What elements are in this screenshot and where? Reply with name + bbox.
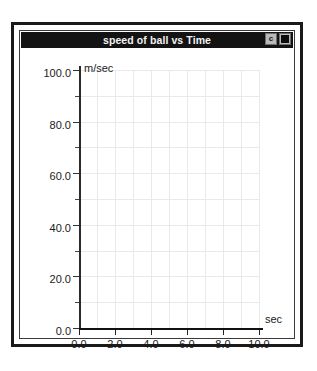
plot-panel: 0.020.040.060.080.0100.0 0.02.04.06.08.0…	[21, 48, 293, 337]
y-tick-minor	[75, 251, 79, 252]
y-tick-label-text: 80.0	[50, 119, 71, 131]
x-tick-label: 0.0	[59, 334, 99, 352]
window-title: speed of ball vs Time	[103, 34, 211, 46]
y-tick-major	[73, 173, 79, 174]
zoom-button[interactable]: c	[265, 33, 277, 45]
gridline	[79, 96, 259, 97]
x-tick-label: 2.0	[95, 334, 135, 352]
y-tick-major	[73, 70, 79, 71]
x-tick-label-text: 4.0	[143, 338, 158, 350]
x-tick-label-text: 0.0	[71, 338, 86, 350]
y-tick-major	[73, 276, 79, 277]
gridline	[79, 251, 259, 252]
gridline	[79, 276, 259, 277]
x-tick-label-text: 2.0	[107, 338, 122, 350]
gridline	[259, 70, 260, 328]
y-tick-label-text: 40.0	[50, 222, 71, 234]
plot-window: speed of ball vs Time c 0.020.040.060.08…	[11, 22, 303, 347]
y-tick-label-text: 20.0	[50, 273, 71, 285]
x-tick-label-text: 6.0	[179, 338, 194, 350]
x-axis-label: sec	[265, 313, 282, 325]
x-tick-label: 4.0	[131, 334, 171, 352]
x-tick-label: 8.0	[203, 334, 243, 352]
gridline	[79, 225, 259, 226]
x-tick-label-text: 8.0	[215, 338, 230, 350]
y-tick-label: 60.0	[21, 166, 71, 184]
y-tick-label-text: 60.0	[50, 170, 71, 182]
y-tick-label: 100.0	[21, 63, 71, 81]
y-tick-major	[73, 122, 79, 123]
plot-area	[79, 70, 259, 328]
y-tick-label: 20.0	[21, 269, 71, 287]
x-tick-label: 6.0	[167, 334, 207, 352]
gridline	[79, 147, 259, 148]
close-icon	[281, 35, 289, 43]
y-axis-label: m/sec	[84, 62, 113, 74]
titlebar-button-group: c	[265, 33, 291, 45]
gridline	[79, 173, 259, 174]
y-tick-label: 80.0	[21, 115, 71, 133]
x-axis-line	[79, 328, 263, 330]
gridline	[79, 302, 259, 303]
x-tick-label-text: 10.0	[248, 338, 269, 350]
window-inner-panel: speed of ball vs Time c 0.020.040.060.08…	[19, 30, 295, 339]
title-bar[interactable]: speed of ball vs Time c	[21, 32, 293, 48]
y-tick-minor	[75, 199, 79, 200]
close-button[interactable]	[279, 33, 291, 45]
y-axis-line	[79, 66, 81, 329]
gridline	[79, 122, 259, 123]
y-tick-label: 40.0	[21, 218, 71, 236]
zoom-icon: c	[269, 35, 273, 43]
x-tick-label: 10.0	[239, 334, 279, 352]
y-tick-major	[73, 225, 79, 226]
y-tick-minor	[75, 96, 79, 97]
y-tick-minor	[75, 147, 79, 148]
y-tick-minor	[75, 302, 79, 303]
y-tick-label-text: 100.0	[43, 67, 71, 79]
gridline	[79, 199, 259, 200]
y-tick-major	[73, 328, 79, 329]
